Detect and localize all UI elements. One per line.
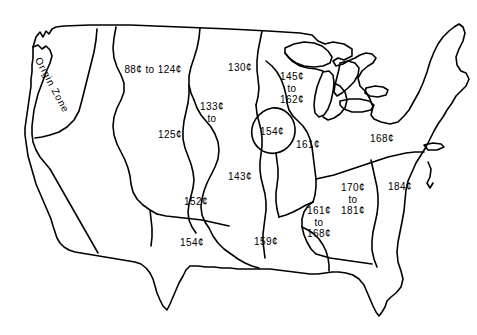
- chesapeake-bay: [427, 162, 433, 188]
- zone-boundary-168-south: [316, 152, 424, 179]
- michigan-outline: [285, 53, 323, 71]
- zone-boundary-88-124-west: [113, 27, 157, 214]
- zone-boundary-170-181-west: [302, 227, 329, 271]
- us-map-outline: [0, 0, 477, 335]
- zone-boundary-154-oval: [252, 108, 295, 153]
- zone-boundary-154-south-east: [209, 228, 259, 268]
- lake-michigan: [314, 71, 334, 117]
- zone-boundary-south-central: [279, 202, 313, 217]
- zone-boundary-143-east: [256, 105, 266, 258]
- zone-boundary-125-east: [183, 85, 196, 233]
- zone-boundary-133-152-east: [194, 100, 219, 228]
- zone-boundary-145-162: [266, 61, 312, 147]
- us-national-border: [25, 24, 469, 316]
- zone-boundary-184-west: [371, 160, 378, 267]
- lake-superior: [285, 42, 332, 67]
- lake-ontario: [365, 86, 388, 97]
- zone-boundary-154-south-west: [150, 210, 152, 246]
- zone-boundary-152-south: [157, 214, 229, 226]
- zone-boundary-161-south: [312, 147, 316, 202]
- zone-boundary-origin: [35, 29, 97, 138]
- freight-rate-zone-map-figure: Origin Zone 88¢ to 124¢ 130¢ 133¢ to 125…: [0, 0, 477, 335]
- zone-boundary-88-124-east: [189, 28, 200, 100]
- zone-boundary-154-tail: [276, 153, 279, 217]
- zone-boundary-161-168-east: [316, 254, 372, 264]
- zone-boundary-130-east: [256, 31, 262, 105]
